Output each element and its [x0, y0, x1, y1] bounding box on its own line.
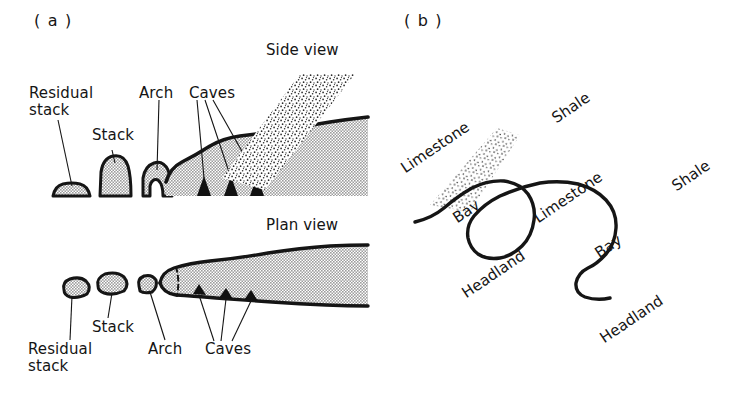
leader-cave-1 — [199, 295, 214, 341]
plan-label-caves: Caves — [205, 341, 251, 357]
side-label-stack: Stack — [92, 127, 134, 143]
panel-a-tag: ( a ) — [34, 12, 72, 29]
side-label-residual-stack-line2: stack — [29, 102, 69, 118]
side-label-caves: Caves — [189, 85, 235, 101]
plan-peninsula — [160, 245, 368, 306]
plan-label-residual-stack-line2: stack — [28, 358, 68, 374]
diagram-artwork — [0, 0, 748, 407]
leader-arch — [157, 100, 159, 170]
coastal-erosion-figure: ( a ) ( b ) Side view Plan view Residual… — [0, 0, 748, 407]
leader-cave-3 — [232, 301, 251, 341]
leader-residual-stack — [70, 296, 72, 340]
plan-label-arch: Arch — [148, 341, 182, 357]
plan-view-title: Plan view — [266, 217, 338, 233]
side-stack — [100, 156, 131, 196]
plan-arch-tip — [139, 276, 157, 293]
plan-stack — [98, 273, 127, 294]
plan-residual-stack — [64, 278, 90, 298]
leader-cave-2 — [221, 299, 226, 341]
side-view-title: Side view — [266, 42, 339, 58]
plan-label-residual-stack-line1: Residual — [28, 341, 92, 357]
leader-residual-stack — [58, 120, 72, 186]
leader-arch — [150, 292, 165, 340]
panel-b-tag: ( b ) — [404, 12, 443, 29]
side-label-arch: Arch — [139, 85, 173, 101]
leader-stack — [108, 293, 112, 318]
side-label-residual-stack-line1: Residual — [29, 85, 93, 101]
plan-label-stack: Stack — [92, 319, 134, 335]
